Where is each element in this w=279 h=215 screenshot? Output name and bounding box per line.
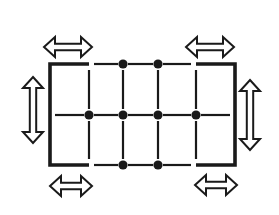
grid-node [153, 59, 162, 68]
top-right-horizontal-arrow-icon [186, 37, 234, 57]
grid-node [118, 160, 127, 169]
grid-node [118, 110, 127, 119]
bottom-left-horizontal-arrow-icon [50, 176, 92, 196]
grid-resize-diagram [0, 0, 279, 215]
right-vertical-arrow-icon [240, 80, 260, 150]
grid-node [191, 110, 200, 119]
grid-node [153, 110, 162, 119]
diagram-canvas [0, 0, 279, 215]
top-left-horizontal-arrow-icon [44, 37, 92, 57]
grid-node [118, 59, 127, 68]
resize-arrows [23, 37, 260, 196]
left-vertical-arrow-icon [23, 77, 43, 143]
bottom-right-horizontal-arrow-icon [195, 175, 237, 195]
grid-node [153, 160, 162, 169]
grid-lines [55, 64, 230, 165]
grid-node [84, 110, 93, 119]
